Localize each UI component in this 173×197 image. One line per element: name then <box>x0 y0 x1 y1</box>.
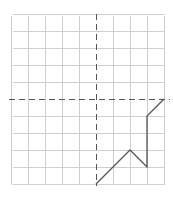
coordinate-plane-chart <box>0 0 173 197</box>
graph-figure <box>0 0 173 197</box>
